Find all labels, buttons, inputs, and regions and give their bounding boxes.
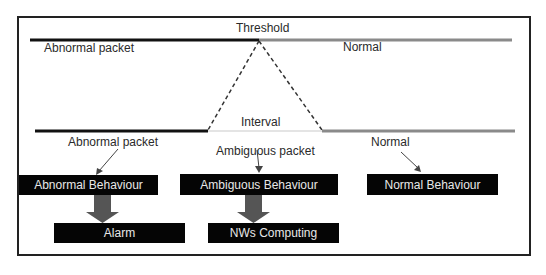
top-normal-label: Normal xyxy=(343,41,382,54)
bottom-abnormal-packet-label: Abnormal packet xyxy=(68,136,158,149)
top-abnormal-packet-label: Abnormal packet xyxy=(44,42,134,55)
normal-pointer-arrow xyxy=(401,152,418,168)
ambiguous-packet-label: Ambiguous packet xyxy=(216,145,315,158)
interval-label: Interval xyxy=(241,116,280,129)
ambiguous-to-nws-arrow xyxy=(237,195,270,223)
bottom-normal-label: Normal xyxy=(371,136,410,149)
alarm-box: Alarm xyxy=(54,223,185,243)
abnormal-to-alarm-arrow xyxy=(86,195,119,223)
nws-computing-box: NWs Computing xyxy=(208,223,339,243)
abnormal-pointer-arrow xyxy=(99,149,118,171)
threshold-label: Threshold xyxy=(236,22,289,35)
normal-behaviour-box: Normal Behaviour xyxy=(367,174,498,195)
abnormal-behaviour-box: Abnormal Behaviour xyxy=(19,175,158,195)
ambiguous-behaviour-box: Ambiguous Behaviour xyxy=(180,174,338,195)
